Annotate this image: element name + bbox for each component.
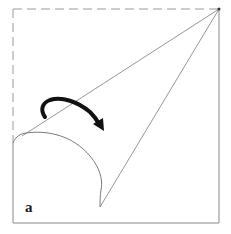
cone-lower-line [100, 9, 219, 207]
corner-point [218, 8, 221, 11]
rotation-arrow-icon [42, 99, 99, 124]
panel-label: a [25, 200, 33, 215]
cone-base-arc [13, 132, 102, 207]
cone-upper-line [22, 9, 219, 136]
cone-folding-diagram [0, 0, 231, 234]
